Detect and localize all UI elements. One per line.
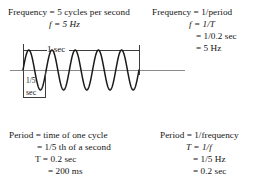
period-left-line2: = 1/5 th of a second: [37, 142, 111, 153]
figure-page: Frequency = 5 cycles per second f = 5 Hz…: [0, 0, 280, 189]
period-left-line4: = 200 ms: [48, 166, 83, 177]
period-right-line3: = 1/5 Hz: [193, 154, 226, 165]
period-right-line1: Period = 1/frequency: [160, 130, 239, 141]
frequency-right-line1: Frequency = 1/period: [152, 7, 232, 18]
fifth-second-tick-right: [45, 72, 46, 98]
frequency-right-line2: f = 1/T: [189, 19, 215, 30]
period-right-line2: T = 1/f: [186, 142, 212, 153]
fifth-second-tick-left: [23, 72, 24, 98]
sine-wave: [0, 38, 280, 120]
period-left-line1: Period = time of one cycle: [9, 130, 108, 141]
period-left-line3: T = 0.2 sec: [35, 154, 76, 165]
waveform-figure: 1 sec 1/5 sec: [0, 38, 280, 120]
frequency-left-line1: Frequency = 5 cycles per second: [8, 7, 130, 18]
fifth-second-numerator-label: 1/5: [26, 76, 36, 85]
frequency-left-line2: f = 5 Hz: [49, 19, 80, 30]
fifth-second-unit-label: sec: [26, 88, 36, 97]
fifth-second-dimension-line: [23, 97, 46, 98]
period-right-line4: = 0.2 sec: [193, 166, 226, 177]
